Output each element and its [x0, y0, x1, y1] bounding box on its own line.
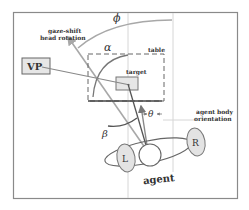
target-label: target — [126, 68, 147, 76]
agent-label: agent — [142, 172, 175, 186]
right-ear-label: R — [192, 138, 199, 148]
diagram-canvas: ϕ gaze-shift head rotation table α targe… — [0, 0, 249, 210]
phi-label: ϕ — [113, 12, 121, 25]
left-ear-label: L — [122, 154, 128, 164]
beta-label: β — [101, 128, 108, 139]
vp-to-target-line — [42, 67, 130, 85]
beta-arc — [108, 118, 137, 126]
alpha-arc — [93, 55, 128, 97]
diagram-svg: ϕ gaze-shift head rotation table α targe… — [0, 0, 249, 210]
head-rotation-label: head rotation — [40, 34, 86, 41]
orientation-label: orientation — [194, 115, 232, 122]
agent-head — [139, 144, 161, 166]
alpha-label: α — [104, 41, 112, 54]
table-label: table — [148, 46, 165, 53]
phi-arc — [78, 20, 172, 48]
theta-label: θ — [148, 109, 154, 119]
target-box — [116, 77, 138, 90]
vp-label: VP — [26, 61, 43, 72]
